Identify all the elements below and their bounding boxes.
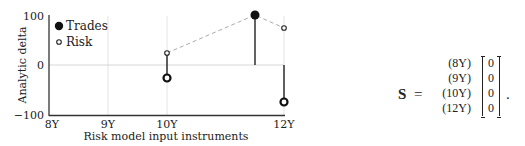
row-label: (9Y) (427, 71, 471, 86)
column-vector: 0 0 0 0 (482, 56, 500, 116)
left-bracket (481, 56, 485, 118)
risk-marker-12y (282, 26, 287, 31)
risk-marker-10y (165, 51, 170, 56)
row-label: (12Y) (427, 101, 471, 116)
ytick-100: 100 (23, 10, 44, 23)
trade-marker-12y (281, 99, 288, 106)
matrix-symbol: S (398, 86, 406, 103)
xtick-12y: 12Y (273, 118, 295, 131)
row-labels: (8Y) (9Y) (10Y) (12Y) (427, 56, 471, 116)
trailing-period: . (506, 86, 510, 103)
risk-line (167, 15, 284, 53)
row-label: (10Y) (427, 86, 471, 101)
right-bracket (497, 56, 501, 118)
equals-sign: = (414, 86, 422, 103)
y-axis-label: Analytic delta (16, 26, 29, 104)
xtick-8y: 8Y (45, 118, 60, 131)
legend-risk-icon (57, 40, 62, 45)
trade-marker-11y (251, 11, 260, 20)
ytick-neg100: −100 (14, 109, 44, 122)
legend-trades-icon (55, 22, 63, 30)
ytick-0: 0 (37, 59, 44, 72)
trade-marker-10y (164, 75, 171, 82)
row-label: (8Y) (427, 56, 471, 71)
x-axis-label: Risk model input instruments (84, 130, 249, 143)
stem-chart: 100 0 −100 8Y 9Y 10Y 12Y Risk model inpu… (0, 0, 340, 146)
legend-risk-label: Risk (66, 35, 93, 49)
legend-trades-label: Trades (66, 19, 108, 33)
